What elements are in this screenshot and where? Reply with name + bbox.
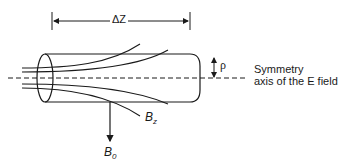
rho-label: ρ: [220, 58, 226, 73]
bz-label: Bz: [145, 110, 157, 126]
b0-label-base: B: [104, 145, 112, 159]
cylinder: [37, 54, 200, 102]
b0-label: B0: [104, 145, 116, 161]
b0-label-sub: 0: [112, 152, 116, 161]
bz-label-sub: z: [153, 117, 157, 126]
bz-label-base: B: [145, 110, 153, 124]
delta-z-label: ΔZ: [110, 13, 128, 25]
symmetry-axis-label: Symmetry axis of the E field: [254, 63, 338, 87]
symmetry-axis-label-line2: axis of the E field: [254, 75, 338, 87]
symmetry-axis-label-line1: Symmetry: [254, 63, 338, 75]
